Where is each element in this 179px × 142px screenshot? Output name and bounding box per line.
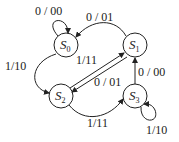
- svg-text:S0: S0: [60, 37, 71, 54]
- transition-s2-s3: 1/11: [69, 99, 123, 130]
- svg-text:S3: S3: [129, 88, 140, 105]
- transition-s0-s2: 1/10: [5, 54, 56, 93]
- state-s0: S0: [54, 33, 78, 57]
- svg-text:S2: S2: [55, 88, 66, 105]
- svg-text:0 / 00: 0 / 00: [138, 65, 165, 79]
- svg-text:1/11: 1/11: [87, 116, 108, 130]
- transition-s3-self: 1/10: [141, 104, 167, 137]
- transition-s1-s0: 0 / 01: [76, 10, 126, 37]
- svg-text:0 / 01: 0 / 01: [94, 75, 121, 89]
- svg-text:1/10: 1/10: [146, 123, 167, 137]
- svg-text:1/10: 1/10: [5, 59, 26, 73]
- svg-text:0 / 00: 0 / 00: [35, 4, 62, 18]
- svg-text:1/11: 1/11: [76, 53, 97, 67]
- state-s3: S3: [123, 84, 147, 108]
- transition-s3-s1: 0 / 00: [135, 58, 165, 84]
- state-s2: S2: [49, 84, 73, 108]
- transition-s0-self: 0 / 00: [35, 4, 68, 36]
- state-s1: S1: [123, 33, 147, 57]
- svg-text:S1: S1: [129, 37, 140, 54]
- state-diagram: S0 S1 S2 S3 0 / 00 0 / 01 1/10 1/11 0 / …: [0, 0, 179, 142]
- svg-text:0 / 01: 0 / 01: [86, 10, 113, 24]
